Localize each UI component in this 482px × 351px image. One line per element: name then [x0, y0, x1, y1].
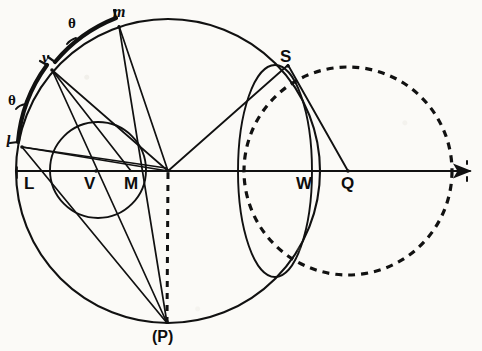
label-point-v: v: [42, 50, 49, 66]
point-dot-center: [166, 169, 170, 173]
label-point-W: W: [296, 175, 312, 192]
label-point-L: L: [24, 175, 34, 192]
diagram-canvas: [0, 0, 482, 351]
segment-S-to-Q: [288, 65, 348, 171]
label-point-S: S: [280, 48, 291, 65]
label-point-P: (P): [152, 329, 173, 345]
point-dot-P: [165, 320, 169, 324]
theta-arc-lower-tick-start: [10, 142, 18, 143]
point-dot-Q: [346, 169, 350, 173]
point-dot-l: [20, 145, 24, 149]
segment-v-to-P: [52, 70, 167, 323]
point-dot-m: [117, 25, 121, 29]
point-dot-V: [94, 169, 97, 172]
geometry-figure: m v l θ θ L V M S W Q (P): [0, 0, 482, 351]
label-theta-upper: θ: [68, 16, 76, 31]
theta-arc-upper: [55, 18, 116, 62]
point-dot-v: [50, 68, 54, 72]
label-point-m: m: [113, 4, 125, 20]
label-point-V: V: [84, 175, 95, 192]
label-point-M: M: [124, 175, 138, 192]
segment-center-to-S: [168, 65, 288, 171]
label-point-Q: Q: [341, 175, 354, 192]
label-theta-lower: θ: [8, 93, 16, 108]
label-point-l: l: [6, 134, 10, 150]
segment-center-to-P-dashed: [167, 173, 168, 321]
